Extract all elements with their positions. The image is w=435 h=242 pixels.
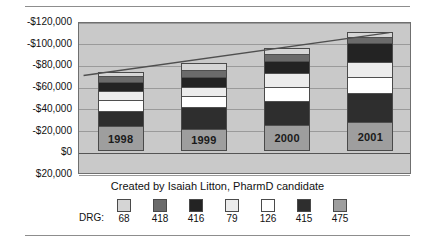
- bar-segment-drg-79[interactable]: [182, 88, 226, 97]
- legend-swatch-drg-416: [189, 199, 203, 212]
- legend-item-drg-68[interactable]: 68: [108, 199, 140, 224]
- bar-segment-drg-68[interactable]: [182, 64, 226, 71]
- figure: -$120,000-$100,000-$80,000-$60,000-$40,0…: [0, 0, 435, 242]
- bottom-divider-rule: [25, 235, 410, 236]
- legend-label-drg-415: 415: [296, 213, 313, 224]
- chart-caption: Created by Isaiah Litton, PharmD candida…: [0, 180, 435, 192]
- bar-segment-drg-415[interactable]: [182, 108, 226, 130]
- legend: DRG: 6841841679126415475: [0, 199, 435, 224]
- y-axis-tick-label: -$60,000: [0, 82, 72, 92]
- legend-swatch-drg-68: [117, 199, 131, 212]
- bar-2000[interactable]: 2000: [264, 48, 310, 151]
- bar-segment-drg-415[interactable]: [99, 112, 143, 127]
- y-axis-tick-label: -$80,000: [0, 60, 72, 70]
- bar-segment-drg-416[interactable]: [99, 83, 143, 92]
- bar-1998[interactable]: 1998: [98, 72, 144, 151]
- bar-segment-drg-475[interactable]: 1998: [99, 127, 143, 150]
- bar-segment-drg-415[interactable]: [265, 102, 309, 126]
- bar-1999[interactable]: 1999: [181, 63, 227, 151]
- legend-label-drg-416: 416: [188, 213, 205, 224]
- bar-segment-drg-126[interactable]: [182, 97, 226, 108]
- legend-label-drg-475: 475: [332, 213, 349, 224]
- bar-year-label: 1999: [182, 134, 226, 146]
- bar-year-label: 1998: [99, 133, 143, 145]
- bar-segment-drg-126[interactable]: [99, 101, 143, 112]
- legend-swatch-drg-475: [333, 199, 347, 212]
- legend-item-drg-126[interactable]: 126: [252, 199, 284, 224]
- bar-segment-drg-126[interactable]: [348, 78, 392, 94]
- top-divider-rule: [25, 6, 410, 7]
- bar-segment-drg-416[interactable]: [348, 44, 392, 63]
- bar-segment-drg-416[interactable]: [182, 78, 226, 88]
- y-axis-tick-label: -$100,000: [0, 39, 72, 49]
- legend-item-drg-418[interactable]: 418: [144, 199, 176, 224]
- legend-label-drg-68: 68: [118, 213, 129, 224]
- y-axis-tick-label: $0: [0, 147, 72, 157]
- legend-item-drg-475[interactable]: 475: [324, 199, 356, 224]
- zero-axis-line: [79, 153, 410, 154]
- bar-segment-drg-79[interactable]: [348, 63, 392, 78]
- legend-swatch-drg-126: [261, 199, 275, 212]
- y-axis-tick-label: -$40,000: [0, 104, 72, 114]
- y-axis-tick-label: -$20,000: [0, 126, 72, 136]
- bar-segment-drg-79[interactable]: [265, 74, 309, 88]
- legend-swatch-drg-418: [153, 199, 167, 212]
- bar-segment-drg-475[interactable]: 2000: [265, 126, 309, 150]
- legend-swatch-drg-415: [297, 199, 311, 212]
- legend-item-drg-416[interactable]: 416: [180, 199, 212, 224]
- legend-label-drg-126: 126: [260, 213, 277, 224]
- bar-segment-drg-416[interactable]: [265, 62, 309, 74]
- bar-segment-drg-418[interactable]: [265, 55, 309, 62]
- bar-segment-drg-418[interactable]: [182, 71, 226, 78]
- y-axis-tick-label: $20,000: [0, 169, 72, 179]
- legend-label-drg-418: 418: [152, 213, 169, 224]
- bar-segment-drg-79[interactable]: [99, 92, 143, 100]
- bar-year-label: 2001: [348, 131, 392, 143]
- trendline-segment: [84, 33, 390, 76]
- bar-segment-drg-415[interactable]: [348, 94, 392, 123]
- legend-label-drg-79: 79: [226, 213, 237, 224]
- bar-segment-drg-126[interactable]: [265, 88, 309, 102]
- legend-swatch-drg-79: [225, 199, 239, 212]
- y-axis-tick-label: -$120,000: [0, 17, 72, 27]
- gridline: [79, 23, 410, 24]
- bar-segment-drg-475[interactable]: 1999: [182, 130, 226, 151]
- legend-item-drg-79[interactable]: 79: [216, 199, 248, 224]
- bar-segment-drg-475[interactable]: 2001: [348, 123, 392, 150]
- plot-area: 1998199920002001: [78, 22, 411, 174]
- legend-item-drg-415[interactable]: 415: [288, 199, 320, 224]
- bar-2001[interactable]: 2001: [347, 32, 393, 151]
- gridline: [79, 175, 410, 176]
- legend-title: DRG:: [79, 212, 104, 224]
- bar-year-label: 2000: [265, 132, 309, 144]
